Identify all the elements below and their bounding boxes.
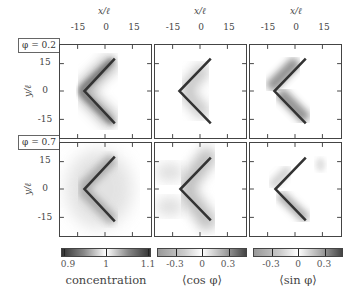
y-tick: -15 (33, 114, 57, 124)
colorbar-tick: 0.3 (309, 259, 339, 269)
colorbar-title-cos-phi: ⟨cos φ⟩ (147, 273, 257, 287)
x-axis-label-col2: x/ℓ (194, 6, 206, 16)
colorbar-sin-phi (253, 248, 343, 257)
y-tick: 0 (33, 85, 57, 95)
heatmap-sin-phi-0.2 (250, 45, 341, 138)
y-tick: -15 (33, 212, 57, 222)
x-tick: 15 (217, 22, 241, 32)
x-tick: 0 (284, 22, 308, 32)
panel-concentration-phi-0.2 (59, 44, 152, 139)
colorbar-tick: 0.9 (53, 259, 83, 269)
colorbar-tick: 1 (91, 259, 121, 269)
y-axis-label-row2: y/ℓ (23, 183, 33, 195)
x-tick: 15 (312, 22, 336, 32)
colorbar-title-concentration: concentration (51, 273, 161, 287)
x-tick: 15 (122, 22, 146, 32)
colorbar-tick: 0.3 (213, 259, 243, 269)
x-tick: 0 (189, 22, 213, 32)
colorbar-concentration (61, 248, 151, 257)
x-tick: 0 (94, 22, 118, 32)
heatmap-sin-phi-0.7 (250, 143, 341, 236)
x-tick: -15 (256, 22, 280, 32)
row-label-phi-0.7: φ = 0.7 (18, 135, 60, 150)
y-axis-label-row1: y/ℓ (23, 85, 33, 97)
x-axis-label-col3: x/ℓ (290, 6, 302, 16)
heatmap-concentration-phi-0.7 (60, 143, 151, 236)
colorbar-tick: -0.3 (160, 259, 190, 269)
heatmap-cos-phi-0.7 (155, 143, 246, 236)
heatmap-cos-phi-0.2 (155, 45, 246, 138)
panel-concentration-phi-0.7 (59, 142, 152, 237)
colorbar-tick: 1.1 (133, 259, 163, 269)
panel-sin-phi-0.2 (249, 44, 342, 139)
y-tick: 0 (33, 183, 57, 193)
heatmap-concentration-phi-0.2 (60, 45, 151, 138)
y-tick: 15 (33, 57, 57, 67)
y-tick: 15 (33, 155, 57, 165)
colorbar-title-sin-phi: ⟨sin φ⟩ (243, 273, 353, 287)
x-tick: -15 (66, 22, 90, 32)
x-tick: -15 (161, 22, 185, 32)
panel-cos-phi-0.7 (154, 142, 247, 237)
colorbar-cos-phi (157, 248, 247, 257)
panel-sin-phi-0.7 (249, 142, 342, 237)
panel-cos-phi-0.2 (154, 44, 247, 139)
row-label-phi-0.2: φ = 0.2 (18, 38, 60, 53)
x-axis-label-col1: x/ℓ (98, 6, 110, 16)
colorbar-tick: -0.3 (256, 259, 286, 269)
